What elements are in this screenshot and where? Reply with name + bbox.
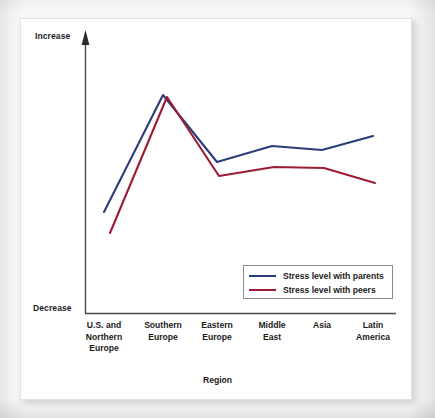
line-chart-plot <box>0 0 435 418</box>
figure-root: Increase Decrease U.S. and Northern Euro… <box>0 0 435 418</box>
x-tick-label-us-northern-europe: U.S. and Northern Europe <box>72 320 136 355</box>
legend-swatch-peers-icon <box>249 289 276 291</box>
x-tick-label-latin-america: Latin America <box>341 320 405 343</box>
y-axis-top-label: Increase <box>35 31 70 41</box>
x-axis-title: Region <box>0 375 435 385</box>
y-axis <box>82 30 90 313</box>
chart-legend: Stress level with parents Stress level w… <box>243 265 393 299</box>
y-axis-bottom-label: Decrease <box>33 303 72 313</box>
series-line-peers <box>110 97 375 233</box>
legend-label-parents: Stress level with parents <box>283 271 384 281</box>
legend-item-parents: Stress level with parents <box>249 269 387 283</box>
legend-swatch-parents-icon <box>249 275 276 277</box>
legend-item-peers: Stress level with peers <box>249 283 387 297</box>
y-axis-arrow-icon <box>82 30 90 45</box>
legend-label-peers: Stress level with peers <box>283 285 376 295</box>
